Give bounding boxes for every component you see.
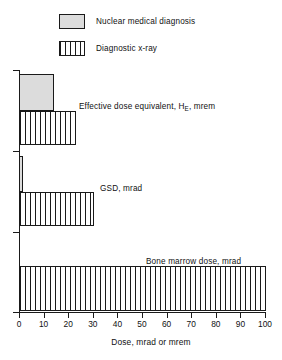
bar-diagnostic-xray-effective-dose: [19, 111, 76, 145]
x-axis-tick: [265, 313, 266, 318]
plot-area: Effective dose equivalent, HE, mrem GSD,…: [0, 0, 282, 360]
bar-nuclear-medical-diagnosis-effective-dose: [19, 74, 54, 111]
x-axis-title-text: Dose, mrad or mrem: [111, 337, 191, 347]
x-axis-tick: [167, 313, 168, 318]
group-label-effective-dose-equivalent: Effective dose equivalent, HE, mrem: [79, 102, 215, 111]
x-axis-tick: [191, 313, 192, 318]
x-axis-tick: [93, 313, 94, 318]
y-axis-tick: [13, 151, 19, 152]
y-axis-tick: [13, 70, 19, 71]
x-axis-tick: [44, 313, 45, 318]
bar-nuclear-medical-diagnosis-gsd: [19, 156, 23, 192]
group-label-bone-marrow-dose: Bone marrow dose, mrad: [146, 257, 241, 266]
x-axis-tick: [19, 313, 20, 318]
bar-diagnostic-xray-bone-marrow-dose: [19, 266, 266, 311]
x-axis-title: Dose, mrad or mrem: [0, 337, 282, 347]
bar-diagnostic-xray-gsd: [19, 192, 94, 226]
x-axis-tick: [240, 313, 241, 318]
x-axis-tick-label: 100: [250, 319, 280, 329]
x-axis-tick: [216, 313, 217, 318]
x-axis-tick: [68, 313, 69, 318]
y-axis-tick: [13, 232, 19, 233]
group-label-gsd: GSD, mrad: [100, 184, 142, 193]
x-axis-tick: [117, 313, 118, 318]
x-axis-tick: [142, 313, 143, 318]
bar-chart: Nuclear medical diagnosis Diagnostic x-r…: [0, 0, 282, 360]
